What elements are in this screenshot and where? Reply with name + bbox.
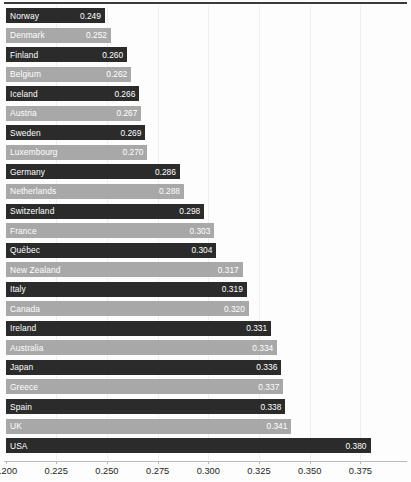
bar[interactable]: Canada0.320 [6, 301, 249, 316]
bar-category-label: Sweden [10, 129, 41, 137]
bar-row[interactable]: Greece0.337 [0, 379, 411, 394]
bar-value-label: 0.319 [222, 285, 243, 293]
bar-category-label: New Zealand [10, 265, 60, 273]
bar-value-label: 0.338 [260, 402, 281, 410]
x-axis-tick-label: 0.250 [95, 466, 118, 476]
bar-value-label: 0.286 [155, 168, 176, 176]
bar[interactable]: Greece0.337 [6, 379, 283, 394]
bar-row[interactable]: Netherlands0.288 [0, 184, 411, 199]
bar[interactable]: Finland0.260 [6, 47, 127, 62]
bar-category-label: Luxembourg [10, 148, 58, 156]
bar[interactable]: Spain0.338 [6, 399, 285, 414]
bar-row[interactable]: Japan0.336 [0, 360, 411, 375]
bar-category-label: Austria [10, 109, 37, 117]
x-axis-tick [360, 461, 361, 464]
bar-value-label: 0.266 [114, 89, 135, 97]
bar[interactable]: Ireland0.331 [6, 321, 271, 336]
x-axis-tick-label: 0.375 [349, 466, 372, 476]
bar-value-label: 0.334 [252, 344, 273, 352]
bar-row[interactable]: Finland0.260 [0, 47, 411, 62]
bar-series: Norway0.249Denmark0.252Finland0.260Belgi… [0, 5, 411, 460]
bar-value-label: 0.260 [102, 50, 123, 58]
bar-row[interactable]: Québec0.304 [0, 243, 411, 258]
x-axis-tick-label: 0.200 [0, 466, 17, 476]
bar-row[interactable]: Luxembourg0.270 [0, 145, 411, 160]
bar[interactable]: Sweden0.269 [6, 125, 145, 140]
bar-category-label: Japan [10, 363, 33, 371]
bar-value-label: 0.341 [266, 422, 287, 430]
x-axis-tick [259, 461, 260, 464]
bar[interactable]: Iceland0.266 [6, 86, 139, 101]
bar[interactable]: Luxembourg0.270 [6, 145, 147, 160]
bar-row[interactable]: Spain0.338 [0, 399, 411, 414]
bar-value-label: 0.270 [122, 148, 143, 156]
bar-row[interactable]: Germany0.286 [0, 164, 411, 179]
bar[interactable]: USA0.380 [6, 438, 371, 453]
bar-row[interactable]: USA0.380 [0, 438, 411, 453]
chart-top-rule [4, 2, 407, 4]
bar-value-label: 0.320 [224, 305, 245, 313]
bar-category-label: Greece [10, 383, 38, 391]
bar[interactable]: Italy0.319 [6, 282, 247, 297]
bar-category-label: Denmark [10, 31, 45, 39]
bar-row[interactable]: Australia0.334 [0, 340, 411, 355]
bar[interactable]: UK0.341 [6, 419, 291, 434]
bar-value-label: 0.252 [86, 31, 107, 39]
bar-category-label: Canada [10, 305, 40, 313]
bar-row[interactable]: Canada0.320 [0, 301, 411, 316]
bar-value-label: 0.249 [80, 11, 101, 19]
bar-value-label: 0.303 [189, 226, 210, 234]
bar-category-label: Italy [10, 285, 26, 293]
bar-row[interactable]: Sweden0.269 [0, 125, 411, 140]
x-axis-tick [107, 461, 108, 464]
bar-category-label: Netherlands [10, 187, 56, 195]
bar-category-label: France [10, 226, 37, 234]
bar[interactable]: Belgium0.262 [6, 67, 131, 82]
bar[interactable]: Québec0.304 [6, 243, 216, 258]
bar-value-label: 0.267 [116, 109, 137, 117]
bar[interactable]: Japan0.336 [6, 360, 281, 375]
bar-row[interactable]: Iceland0.266 [0, 86, 411, 101]
bar[interactable]: Austria0.267 [6, 106, 141, 121]
x-axis-tick-label: 0.225 [45, 466, 68, 476]
bar-category-label: Iceland [10, 89, 38, 97]
x-axis-tick [56, 461, 57, 464]
bar-row[interactable]: Denmark0.252 [0, 28, 411, 43]
x-axis-tick-label: 0.325 [247, 466, 270, 476]
bar-value-label: 0.337 [258, 383, 279, 391]
bar-category-label: Finland [10, 50, 38, 58]
bar-row[interactable]: France0.303 [0, 223, 411, 238]
bar-row[interactable]: Belgium0.262 [0, 67, 411, 82]
bar[interactable]: Switzerland0.298 [6, 204, 204, 219]
bar-row[interactable]: Italy0.319 [0, 282, 411, 297]
bar-value-label: 0.288 [159, 187, 180, 195]
bar-row[interactable]: Norway0.249 [0, 8, 411, 23]
bar-value-label: 0.336 [256, 363, 277, 371]
bar[interactable]: Norway0.249 [6, 8, 105, 23]
bar[interactable]: New Zealand0.317 [6, 262, 243, 277]
bar-category-label: Germany [10, 168, 45, 176]
bar-category-label: Ireland [10, 324, 36, 332]
x-axis-tick [158, 461, 159, 464]
bar-category-label: Australia [10, 344, 43, 352]
bar-row[interactable]: UK0.341 [0, 419, 411, 434]
bar[interactable]: Netherlands0.288 [6, 184, 184, 199]
bar-value-label: 0.380 [346, 441, 367, 449]
bar-category-label: Belgium [10, 70, 41, 78]
bar-value-label: 0.262 [106, 70, 127, 78]
bar[interactable]: Germany0.286 [6, 164, 180, 179]
bar-row[interactable]: New Zealand0.317 [0, 262, 411, 277]
x-axis-tick [208, 461, 209, 464]
bar-row[interactable]: Austria0.267 [0, 106, 411, 121]
bar-row[interactable]: Ireland0.331 [0, 321, 411, 336]
bar-category-label: Switzerland [10, 207, 54, 215]
bar-category-label: USA [10, 441, 28, 449]
bar[interactable]: France0.303 [6, 223, 214, 238]
bar-category-label: UK [10, 422, 22, 430]
bar-value-label: 0.269 [120, 129, 141, 137]
bar-row[interactable]: Switzerland0.298 [0, 204, 411, 219]
bar-value-label: 0.298 [179, 207, 200, 215]
bar[interactable]: Denmark0.252 [6, 28, 111, 43]
bar[interactable]: Australia0.334 [6, 340, 277, 355]
bar-value-label: 0.304 [191, 246, 212, 254]
